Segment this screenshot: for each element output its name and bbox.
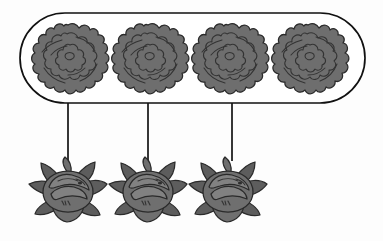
connector-group	[68, 103, 232, 161]
lotus-flower-icon	[29, 157, 107, 222]
lotus-flower-icon	[109, 157, 187, 222]
diagram-surface	[0, 0, 383, 241]
bottom-row-group	[29, 157, 267, 222]
diagram-canvas: Flower grouping diagram	[0, 0, 383, 241]
lotus-flower-icon	[189, 157, 267, 222]
